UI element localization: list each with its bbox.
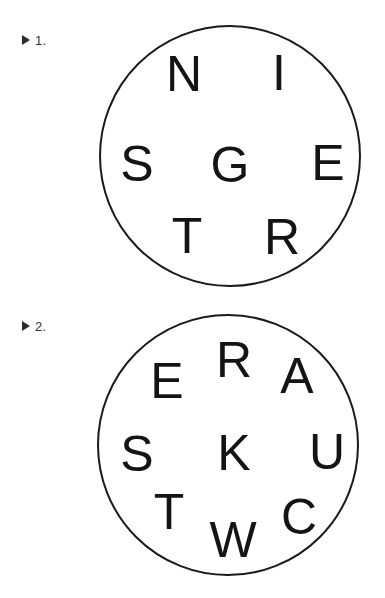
puzzle-page: 1. N I S G E T R 2. R E A S K U T C W	[0, 0, 385, 598]
triangle-right-icon	[22, 35, 30, 45]
letter-tile: T	[172, 211, 203, 261]
letter-tile: A	[280, 351, 313, 401]
letter-tile: E	[150, 356, 183, 406]
letter-tile: W	[209, 515, 256, 565]
letter-tile: R	[216, 335, 252, 385]
letter-tile: S	[120, 429, 153, 479]
letter-tile: S	[120, 139, 153, 189]
item-marker-1: 1.	[22, 32, 46, 48]
letter-tile: I	[272, 48, 286, 98]
letter-tile: R	[264, 212, 300, 262]
letter-tile: T	[154, 487, 185, 537]
item-marker-2: 2.	[22, 318, 46, 334]
letter-tile: U	[309, 427, 345, 477]
letter-tile: C	[281, 492, 317, 542]
letter-tile: K	[217, 428, 250, 478]
item-number-label-1: 1.	[35, 34, 46, 47]
letter-tile: N	[166, 49, 202, 99]
letter-tile: E	[311, 138, 344, 188]
item-number-label-2: 2.	[35, 320, 46, 333]
triangle-right-icon	[22, 321, 30, 331]
letter-tile: G	[211, 140, 250, 190]
